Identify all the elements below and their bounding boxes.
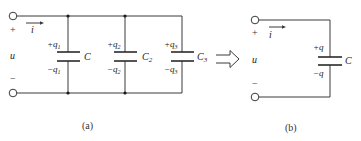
current-label-b: i [269,29,272,40]
junction-dot [66,91,69,94]
c3-plus-charge: +q3 [164,39,178,50]
junction-dot [123,91,126,94]
hollow-right-arrow-icon [216,51,239,68]
top-terminal-a [9,12,17,20]
c3-minus-charge: −q3 [164,64,178,75]
arrowhead-icon [40,21,44,24]
caption-b: (b) [285,122,297,134]
junction-dot [66,14,69,17]
c-plus-charge: +q [313,42,324,52]
c1-label: C [84,51,91,62]
c1-minus-charge: −q1 [47,64,61,75]
current-label-a: i [31,24,34,35]
voltage-label-b: u [252,54,257,65]
c2-minus-charge: −q2 [107,64,121,75]
c-minus-charge: −q [313,68,324,78]
c2-label: C2 [142,51,153,64]
voltage-label-a: u [10,50,15,61]
figure-b: + u − i +q −q C (b) [251,16,352,134]
circuit-diagram: + u − i +q1 −q1 C +q2 −q2 C2 +q3 −q3 C3 … [0,0,361,141]
c2-plus-charge: +q2 [107,39,121,50]
c-label: C [345,55,352,66]
bottom-terminal-a [9,89,17,97]
caption-a: (a) [82,120,93,132]
minus-sign-b: − [252,78,258,89]
plus-sign-b: + [252,27,258,38]
c1-plus-charge: +q1 [47,39,61,50]
minus-sign-a: − [10,73,16,84]
bottom-terminal-b [251,93,259,101]
c3-label: C3 [197,51,208,64]
plus-sign-a: + [10,24,16,35]
arrowhead-icon [282,25,286,28]
figure-a: + u − i +q1 −q1 C +q2 −q2 C2 +q3 −q3 C3 … [9,12,207,132]
junction-dot [123,14,126,17]
top-terminal-b [251,16,259,24]
